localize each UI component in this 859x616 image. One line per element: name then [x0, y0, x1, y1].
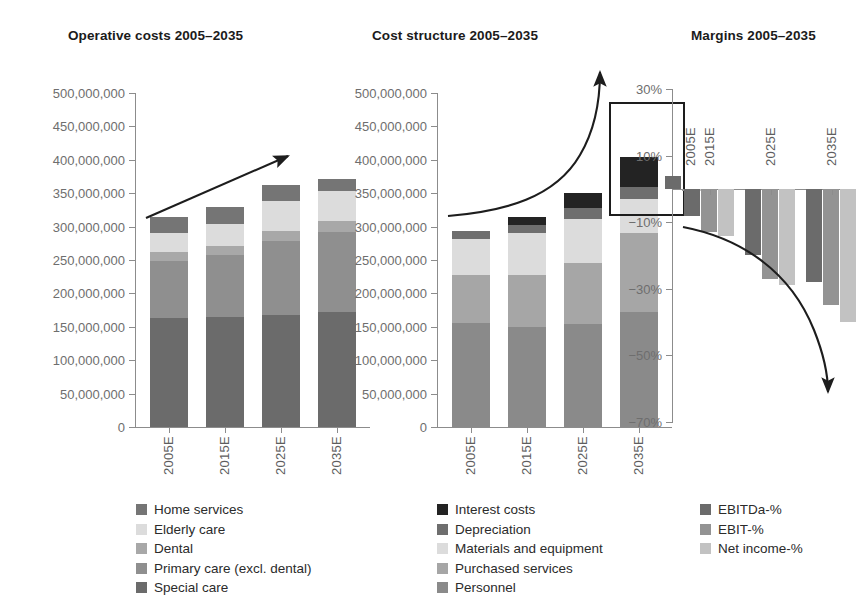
- legend-item: Depreciation: [437, 520, 603, 540]
- legend-label: Dental: [154, 539, 193, 559]
- legend-label: Materials and equipment: [455, 539, 603, 559]
- legend-swatch: [136, 582, 147, 593]
- y-axis-tick: [666, 422, 672, 423]
- y-axis-label: −30%: [612, 281, 662, 296]
- legend-item: Purchased services: [437, 559, 603, 579]
- legend-label: Net income-%: [718, 539, 803, 559]
- legend-label: EBIT-%: [718, 520, 764, 540]
- y-axis-tick: [666, 89, 672, 90]
- bar-grouped: [823, 189, 839, 306]
- legend-margins: EBITDa-%EBIT-%Net income-%: [700, 500, 803, 559]
- legend-swatch: [136, 563, 147, 574]
- y-axis-tick: [666, 355, 672, 356]
- legend-swatch: [700, 504, 711, 515]
- legend-label: Personnel: [455, 578, 516, 598]
- plot-area-margins: 30%10%−10%−30%−50%−70%2005E2015E2025E203…: [0, 0, 859, 500]
- y-axis-tick: [666, 289, 672, 290]
- bar-grouped: [840, 189, 856, 322]
- y-axis-tick: [666, 156, 672, 157]
- legend-label: EBITDa-%: [718, 500, 782, 520]
- legend-swatch: [437, 582, 448, 593]
- y-axis-label: 10%: [612, 148, 662, 163]
- legend-swatch: [700, 543, 711, 554]
- y-axis-line: [672, 89, 673, 423]
- legend-item: Home services: [136, 500, 312, 520]
- legend-item: Primary care (excl. dental): [136, 559, 312, 579]
- legend-label: Elderly care: [154, 520, 225, 540]
- x-axis-label: 2015E: [702, 127, 717, 166]
- legend-swatch: [437, 504, 448, 515]
- bar-grouped: [762, 189, 778, 279]
- legend-swatch: [700, 524, 711, 535]
- x-axis-label: 2005E: [683, 127, 698, 166]
- legend-swatch: [136, 543, 147, 554]
- legend-item: Interest costs: [437, 500, 603, 520]
- legend-item: Dental: [136, 539, 312, 559]
- legend-swatch: [136, 524, 147, 535]
- legend-label: Home services: [154, 500, 243, 520]
- legend-label: Primary care (excl. dental): [154, 559, 312, 579]
- legend-item: Net income-%: [700, 539, 803, 559]
- legend-operative-costs: Home servicesElderly careDentalPrimary c…: [136, 500, 312, 598]
- x-axis-tick: [710, 190, 711, 195]
- y-axis-label: 30%: [612, 82, 662, 97]
- legend-label: Purchased services: [455, 559, 573, 579]
- bar-grouped: [806, 189, 822, 282]
- legend-swatch: [437, 563, 448, 574]
- legend-label: Interest costs: [455, 500, 535, 520]
- legend-item: Elderly care: [136, 520, 312, 540]
- x-axis-tick: [771, 190, 772, 195]
- bar-grouped: [701, 189, 717, 232]
- legend-item: Materials and equipment: [437, 539, 603, 559]
- legend-cost-structure: Interest costsDepreciationMaterials and …: [437, 500, 603, 598]
- figure-root: Operative costs 2005–2035 050,000,000100…: [0, 0, 859, 616]
- legend-item: Personnel: [437, 578, 603, 598]
- y-axis-tick: [666, 222, 672, 223]
- y-axis-label: −50%: [612, 348, 662, 363]
- bar-grouped: [745, 189, 761, 256]
- legend-swatch: [136, 504, 147, 515]
- legend-swatch: [437, 543, 448, 554]
- bar-grouped: [718, 189, 734, 236]
- trend-arrow-margins: [0, 0, 859, 500]
- bar-grouped: [665, 176, 681, 189]
- y-axis-label: −70%: [612, 415, 662, 430]
- legend-item: EBIT-%: [700, 520, 803, 540]
- bar-grouped: [684, 189, 700, 216]
- bar-grouped: [779, 189, 795, 286]
- x-axis-tick: [832, 190, 833, 195]
- legend-swatch: [437, 524, 448, 535]
- legend-label: Special care: [154, 578, 228, 598]
- legend-item: Special care: [136, 578, 312, 598]
- legend-item: EBITDa-%: [700, 500, 803, 520]
- y-axis-label: −10%: [612, 215, 662, 230]
- x-axis-label: 2025E: [763, 127, 778, 166]
- x-axis-label: 2035E: [824, 127, 839, 166]
- legend-label: Depreciation: [455, 520, 531, 540]
